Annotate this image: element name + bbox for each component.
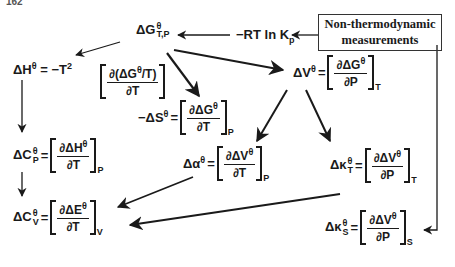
delta-kt-label: Δκ <box>330 157 347 172</box>
delta-g-sub: T,P <box>156 30 169 38</box>
node-delta-alpha: Δαθ=∂ΔVθ∂TP <box>183 146 269 183</box>
dalpha-den: ∂T <box>224 165 255 179</box>
arrow-dkT-to-dCv <box>130 194 340 225</box>
delta-h-rhs: = −T <box>40 63 67 78</box>
dks-den: ∂P <box>367 229 398 243</box>
dalpha-num-sup: θ <box>248 147 253 157</box>
dcp-den: ∂T <box>57 157 89 171</box>
arrow-dG-to-dH <box>76 42 120 55</box>
dcp-subscript: P <box>97 166 103 175</box>
delta-cp-sub: P <box>33 156 39 164</box>
arrow-measurements-to-dkS <box>424 45 437 230</box>
dv-num: ∂ΔG <box>336 58 360 72</box>
dks-num-sup: θ <box>392 211 397 221</box>
dkt-den: ∂P <box>372 167 403 181</box>
dalpha-subscript: P <box>263 174 269 183</box>
delta-ks-label: Δκ <box>325 219 342 234</box>
arrow-dalpha-to-dCv <box>118 177 193 207</box>
delta-g-label: ΔG <box>136 22 155 37</box>
dv-den: ∂P <box>334 74 367 88</box>
node-delta-kappa-s: ΔκθS=∂ΔVθ∂PS <box>325 210 413 247</box>
dcp-num: ∂ΔH <box>59 141 82 155</box>
node-delta-s: −ΔSθ=∂ΔGθ∂TP <box>138 100 234 137</box>
box-line1: Non-thermodynamic <box>319 17 441 33</box>
delta-s-sup: θ <box>164 109 169 119</box>
node-delta-cp: ΔCθP=∂ΔHθ∂TP <box>13 138 103 175</box>
ds-subscript: P <box>228 128 234 137</box>
ds-num-sup: θ <box>213 101 218 111</box>
delta-h-sup: θ <box>32 61 37 71</box>
arrow-dV-to-dalpha <box>257 90 287 141</box>
dh-num: ∂(ΔG <box>109 67 137 81</box>
dcv-num-sup: θ <box>82 201 87 211</box>
delta-alpha-label: Δα <box>183 157 200 172</box>
dks-num: ∂ΔV <box>369 213 392 227</box>
delta-alpha-sup: θ <box>200 155 205 165</box>
dks-subscript: S <box>407 238 413 247</box>
delta-h-rhs-sup: 2 <box>67 61 72 71</box>
arrow-dG-to-dS <box>167 53 199 96</box>
delta-kt-sub: T <box>348 166 354 174</box>
non-thermodynamic-measurements-box: Non-thermodynamic measurements <box>318 14 442 51</box>
dv-subscript: T <box>375 83 381 92</box>
arrow-dV-to-dkT <box>306 90 330 141</box>
rtlnk-label: −RT ln K <box>236 27 289 42</box>
dcv-subscript: V <box>97 228 103 237</box>
dkt-num-sup: θ <box>396 149 401 159</box>
node-delta-v: ΔVθ=∂ΔGθ∂PT <box>293 55 381 92</box>
dcv-den: ∂T <box>57 219 88 233</box>
node-delta-h-derivative: ∂(ΔGθ/T)∂T <box>100 64 165 99</box>
node-delta-kappa-t: ΔκθT=∂ΔVθ∂PT <box>330 148 417 185</box>
ds-den: ∂T <box>187 119 220 133</box>
dalpha-num: ∂ΔV <box>226 149 249 163</box>
delta-cv-sub: V <box>33 218 39 226</box>
node-rt-ln-kp: −RT ln Kp <box>236 28 295 45</box>
delta-v-label: ΔV <box>293 66 311 81</box>
dkt-num: ∂ΔV <box>374 151 397 165</box>
rtlnk-sub: p <box>289 35 295 45</box>
ds-num: ∂ΔG <box>189 103 213 117</box>
dv-num-sup: θ <box>360 56 365 66</box>
delta-ks-sub: S <box>343 228 349 236</box>
thermodynamic-relations-diagram: 162 <box>0 0 455 267</box>
node-delta-cv: ΔCθV=∂ΔEθ∂TV <box>13 200 103 237</box>
delta-cp-label: ΔC <box>13 147 32 162</box>
dh-num-tail: /T) <box>142 67 157 81</box>
node-delta-g: ΔGθT,P <box>136 22 169 38</box>
dcv-num: ∂ΔE <box>59 203 82 217</box>
delta-h-label: ΔH <box>13 63 32 78</box>
box-line2: measurements <box>319 33 441 49</box>
arrow-dG-to-dV <box>174 50 283 70</box>
node-delta-h: ΔHθ = −T2 <box>13 62 72 77</box>
delta-cv-label: ΔC <box>13 209 32 224</box>
delta-s-label: −ΔS <box>138 111 164 126</box>
dh-den: ∂T <box>107 83 158 97</box>
delta-v-sup: θ <box>311 64 316 74</box>
dcp-num-sup: θ <box>83 139 88 149</box>
dkt-subscript: T <box>411 176 417 185</box>
